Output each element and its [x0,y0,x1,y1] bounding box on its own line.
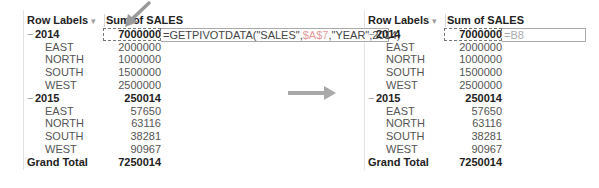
row-labels-header[interactable]: Row Labels▾ [368,14,442,28]
selected-cell[interactable]: 7000000 [444,28,502,41]
formula-cell[interactable]: =GETPIVOTDATA("SALES",$A$7,"YEAR",2014) [161,28,389,42]
right-arrow-icon [288,86,338,100]
formula-cell[interactable]: =B8 [502,28,586,42]
row-label: 2015 [35,92,59,104]
row-label: 2014 [376,28,400,40]
column-separator [445,14,446,27]
collapse-icon[interactable]: − [368,92,376,105]
cell-reference: $A$7 [303,29,329,41]
row-label: 2015 [376,92,400,104]
annotation-arrow-icon [122,0,152,30]
row-label: 2014 [35,28,59,40]
sum-of-sales-header[interactable]: Sum of SALES [447,14,517,27]
filter-dropdown-icon[interactable]: ▾ [432,16,437,26]
filter-dropdown-icon[interactable]: ▾ [91,16,96,26]
collapse-icon[interactable]: − [27,28,35,41]
collapse-icon[interactable]: − [368,28,376,41]
column-separator [104,14,105,27]
left-gridline [23,10,24,170]
collapse-icon[interactable]: − [27,92,35,105]
row-labels-header[interactable]: Row Labels▾ [27,14,101,28]
